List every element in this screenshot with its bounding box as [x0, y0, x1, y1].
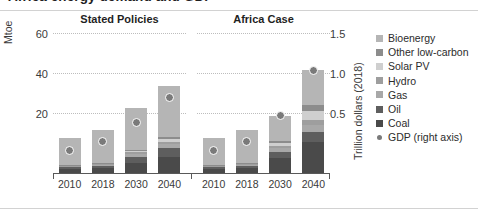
legend-item-coal[interactable]: Coal [376, 116, 476, 130]
bar-segment-oil [302, 132, 324, 142]
x-axis-label-2010: 2010 [53, 178, 87, 190]
bar-segment-gas [203, 166, 225, 167]
left-axis-tick-40: 40 [22, 68, 48, 80]
bar-segment-other-low-carbon [236, 163, 258, 164]
bar-segment-gas [236, 165, 258, 166]
legend-label: Oil [388, 103, 401, 115]
bar-segment-other-low-carbon [92, 163, 114, 164]
legend-dot-icon [377, 135, 382, 140]
right-axis-tick-0-5: 0.5 [330, 108, 360, 120]
bar-segment-coal [125, 163, 147, 173]
axis-tick-mid [191, 173, 192, 179]
legend-label: Bioenergy [388, 32, 435, 44]
bar-segment-solar-pv [236, 163, 258, 164]
bar-segment-oil [203, 167, 225, 169]
bar-segment-coal [158, 157, 180, 173]
panel-header-africa-case: Africa Case [197, 13, 330, 25]
bar-segment-gas [125, 154, 147, 157]
bar-segment-solar-pv [302, 111, 324, 120]
plot-area: Stated Policies Africa Case [53, 33, 330, 173]
bar-segment-bioenergy [236, 130, 258, 163]
legend-item-solar-pv[interactable]: Solar PV [376, 59, 476, 73]
legend-item-gas[interactable]: Gas [376, 88, 476, 102]
figure-title-clipped: Africa energy demand and GDP [0, 0, 478, 9]
chart-figure: Africa energy demand and GDP Mtoe Trilli… [0, 0, 478, 219]
left-axis-tick-20: 20 [22, 108, 48, 120]
gridline-60 [197, 33, 330, 34]
bar-segment-hydro [92, 164, 114, 165]
bar-segment-other-low-carbon [158, 137, 180, 139]
bar-africa-case-2040 [302, 70, 324, 173]
left-axis-tick-60: 60 [22, 28, 48, 40]
gdp-marker-africa-case-2030 [276, 111, 285, 120]
bar-segment-other-low-carbon [269, 141, 291, 143]
legend-swatch-icon [376, 63, 383, 70]
bar-segment-hydro [203, 166, 225, 167]
bar-segment-oil [59, 167, 81, 169]
right-axis-tick-1-5: 1.5 [330, 28, 360, 40]
legend-item-oil[interactable]: Oil [376, 102, 476, 116]
legend-item-gdp-right-axis[interactable]: GDP (right axis) [376, 130, 476, 144]
bar-segment-solar-pv [125, 151, 147, 153]
bar-segment-gas [59, 166, 81, 167]
bar-segment-hydro [158, 142, 180, 144]
bar-segment-gas [158, 144, 180, 148]
legend-item-bioenergy[interactable]: Bioenergy [376, 31, 476, 45]
legend-item-hydro[interactable]: Hydro [376, 74, 476, 88]
chart-legend: BioenergyOther low-carbonSolar PVHydroGa… [376, 31, 476, 145]
bar-africa-case-2030 [269, 116, 291, 173]
bar-segment-hydro [236, 164, 258, 165]
legend-label: Hydro [388, 75, 416, 87]
gdp-marker-stated-policies-2030 [132, 118, 141, 127]
legend-label: Other low-carbon [388, 46, 469, 58]
bar-segment-solar-pv [158, 139, 180, 142]
bar-segment-other-low-carbon [302, 105, 324, 111]
legend-swatch-icon [376, 120, 383, 127]
figure-title-text: Africa energy demand and GDP [8, 0, 213, 4]
left-axis-title: Mtoe [2, 21, 14, 44]
x-axis-label-2040: 2040 [152, 178, 186, 190]
bar-segment-solar-pv [92, 163, 114, 164]
gridline-40 [53, 73, 186, 74]
legend-swatch-icon [376, 49, 383, 56]
bar-segment-other-low-carbon [125, 150, 147, 151]
bar-segment-oil [269, 152, 291, 158]
bar-stated-policies-2010 [59, 138, 81, 173]
bar-segment-bioenergy [125, 108, 147, 150]
x-axis-label-2018: 2018 [86, 178, 120, 190]
bar-africa-case-2010 [203, 138, 225, 173]
x-axis-label-2018: 2018 [230, 178, 264, 190]
bar-segment-gas [302, 125, 324, 132]
legend-label: Solar PV [388, 60, 429, 72]
gridline-60 [53, 33, 186, 34]
x-axis-label-2030: 2030 [119, 178, 153, 190]
legend-swatch-icon [376, 35, 383, 42]
legend-label: Coal [388, 117, 410, 129]
bar-segment-oil [92, 166, 114, 168]
panel-header-stated-policies: Stated Policies [53, 13, 186, 25]
bar-segment-coal [269, 158, 291, 173]
top-divider [0, 10, 478, 11]
bar-segment-hydro [125, 152, 147, 154]
legend-label: GDP (right axis) [388, 131, 463, 143]
legend-item-other-low-carbon[interactable]: Other low-carbon [376, 45, 476, 59]
legend-swatch-icon [376, 77, 383, 84]
legend-label: Gas [388, 89, 407, 101]
bar-segment-solar-pv [269, 143, 291, 146]
bar-segment-oil [125, 157, 147, 163]
gdp-marker-africa-case-2018 [242, 137, 251, 146]
gdp-marker-stated-policies-2040 [165, 93, 174, 102]
legend-swatch-icon [376, 91, 383, 98]
right-axis-tick-1-0: 1.0 [330, 68, 360, 80]
bar-segment-hydro [302, 120, 324, 125]
x-axis-label-2040: 2040 [296, 178, 330, 190]
gdp-marker-africa-case-2040 [309, 66, 318, 75]
x-axis-label-2010: 2010 [197, 178, 231, 190]
bar-segment-oil [158, 148, 180, 157]
gdp-marker-stated-policies-2018 [98, 137, 107, 146]
legend-swatch-icon [376, 106, 383, 113]
bottom-divider [0, 208, 478, 209]
bar-segment-bioenergy [92, 130, 114, 163]
x-axis-label-2030: 2030 [263, 178, 297, 190]
bar-segment-hydro [269, 146, 291, 148]
